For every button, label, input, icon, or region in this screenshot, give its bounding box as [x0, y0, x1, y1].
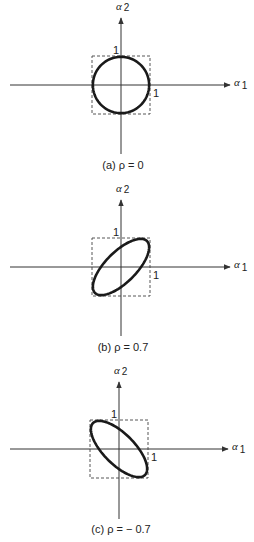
- tick-y-label: 1: [111, 408, 117, 420]
- panel-b: 1 1 α1 α2 (b) ρ = 0.7: [10, 182, 248, 353]
- y-axis-label: α2: [116, 182, 130, 195]
- panel-caption: (c) ρ = − 0.7: [91, 523, 150, 535]
- x-axis-label: α1: [234, 76, 248, 91]
- figure-canvas: 1 1 α1 α2 (a) ρ = 0 1 1 α1 α2 (b) ρ = 0.…: [0, 0, 254, 542]
- tick-x-label: 1: [153, 269, 159, 281]
- x-axis-label: α1: [234, 258, 248, 273]
- panel-c: 1 1 α1 α2 (c) ρ = − 0.7: [10, 364, 246, 535]
- tick-y-label: 1: [113, 44, 119, 56]
- x-axis-label: α1: [232, 440, 246, 455]
- tick-y-label: 1: [113, 226, 119, 238]
- tick-x-label: 1: [153, 87, 159, 99]
- y-axis-label: α2: [116, 0, 130, 13]
- panel-a: 1 1 α1 α2 (a) ρ = 0: [10, 0, 248, 171]
- tick-x-label: 1: [151, 451, 157, 463]
- panel-caption: (a) ρ = 0: [102, 159, 143, 171]
- y-axis-label: α2: [114, 364, 128, 377]
- panel-caption: (b) ρ = 0.7: [98, 341, 149, 353]
